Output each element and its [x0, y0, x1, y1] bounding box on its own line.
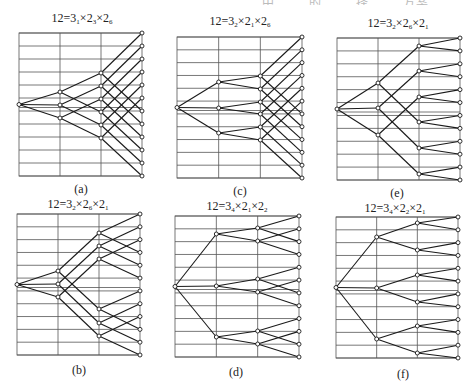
stage2-node [258, 138, 262, 142]
output-node [458, 126, 462, 130]
panel-title-d: 12=34×21×22 [207, 199, 268, 214]
output-node [140, 31, 144, 35]
root-node [334, 286, 338, 290]
stage1-node [56, 282, 60, 286]
stage2-node [256, 239, 260, 243]
output-node [300, 138, 304, 142]
edges [17, 214, 140, 355]
stage1-node [376, 133, 380, 137]
stage2-node [258, 87, 262, 91]
panel-caption-e: (e) [390, 186, 403, 201]
output-node [456, 253, 460, 257]
output-node [138, 238, 142, 242]
stage2-node [417, 44, 421, 48]
root-node [17, 103, 21, 107]
output-node [297, 304, 301, 308]
output-node [297, 329, 301, 333]
output-node [456, 228, 460, 232]
output-node [458, 113, 462, 117]
output-node [297, 252, 301, 256]
title-m1: ×2 [393, 201, 406, 215]
title-lead: 12=3 [48, 197, 73, 211]
stage2-node [258, 112, 262, 116]
stage2-node [258, 100, 262, 104]
output-node [456, 330, 460, 334]
output-node [456, 356, 460, 360]
stage1-node [214, 232, 218, 236]
title-m2: ×2 [251, 199, 264, 213]
output-node [138, 276, 142, 280]
stage2-node [256, 342, 260, 346]
stage1-node [375, 337, 379, 341]
stage1-node [214, 284, 218, 288]
title-lead: 12=3 [210, 14, 235, 28]
stage2-node [97, 231, 101, 235]
output-node [456, 215, 460, 219]
output-node [300, 112, 304, 116]
output-node [300, 163, 304, 167]
stage2-node [256, 226, 260, 230]
stage1-node [376, 81, 380, 85]
panel-title-e: 12=32×26×21 [368, 16, 429, 31]
output-node [297, 227, 301, 231]
stage2-node [258, 125, 262, 129]
root-node [15, 283, 19, 287]
panel-c [175, 35, 304, 180]
stage2-node [417, 172, 421, 176]
panel-caption-c: (c) [233, 184, 246, 199]
stage2-node [415, 300, 419, 304]
output-node [138, 263, 142, 267]
panel-f [334, 215, 460, 360]
title-m2: ×2 [96, 11, 109, 25]
stage2-node [256, 290, 260, 294]
title-m2: ×2 [92, 197, 105, 211]
panel-e [335, 36, 462, 182]
output-node [458, 178, 462, 182]
stage2-node [97, 321, 101, 325]
output-node [138, 353, 142, 357]
panel-title-f: 12=34×22×21 [365, 201, 426, 216]
panel-d [173, 214, 301, 359]
stage1-node [375, 286, 379, 290]
panel-title-b: 12=32×26×21 [48, 197, 109, 212]
edges [336, 217, 458, 358]
title-m1: ×2 [76, 197, 89, 211]
panel-caption-f: (f) [397, 367, 409, 382]
output-node [297, 240, 301, 244]
stage1-node [217, 131, 221, 135]
output-node [138, 302, 142, 306]
output-node [138, 250, 142, 254]
stage2-node [97, 334, 101, 338]
title-m2: ×2 [412, 16, 425, 30]
output-node [140, 70, 144, 74]
output-node [456, 279, 460, 283]
title-s3: 6 [267, 21, 271, 29]
stage2-node [256, 277, 260, 281]
output-node [456, 266, 460, 270]
stage1-node [56, 295, 60, 299]
output-node [458, 36, 462, 40]
root-node [173, 285, 177, 289]
output-node [138, 289, 142, 293]
stage2-node [417, 120, 421, 124]
stage2-node [256, 329, 260, 333]
title-m2: ×2 [409, 201, 422, 215]
output-node [458, 152, 462, 156]
title-lead: 12=3 [207, 199, 232, 213]
output-node [297, 265, 301, 269]
stage2-node [417, 146, 421, 150]
output-node [458, 75, 462, 79]
output-node [300, 99, 304, 103]
stage2-node [415, 221, 419, 225]
title-s3: 1 [105, 204, 109, 212]
title-s3: 6 [109, 18, 113, 26]
output-node [140, 83, 144, 87]
stage1-node [217, 80, 221, 84]
title-s3: 1 [425, 23, 429, 31]
stage2-node [99, 110, 103, 114]
stage1-node [58, 116, 62, 120]
title-s3: 1 [422, 208, 426, 216]
output-node [138, 212, 142, 216]
panel-caption-d: (d) [229, 365, 243, 380]
output-node [140, 44, 144, 48]
